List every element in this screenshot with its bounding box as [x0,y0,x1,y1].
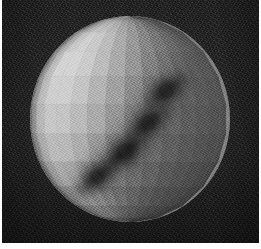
page-margin-left [0,0,2,249]
sphere-dark-markings [30,16,230,222]
page-margin-right [259,0,261,249]
marking-core-group [76,72,188,195]
sphere-render-scene [0,0,261,249]
page-margin-bottom [0,243,261,249]
faceted-sphere [30,16,230,222]
render-viewport [2,0,259,243]
